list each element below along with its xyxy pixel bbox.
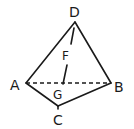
- label-G: G: [53, 88, 62, 102]
- edge-DB: [75, 22, 111, 83]
- edge-CB: [58, 83, 111, 106]
- label-A: A: [10, 77, 20, 93]
- label-B: B: [114, 79, 124, 95]
- segment-FG: [63, 65, 67, 84]
- label-C: C: [53, 112, 63, 128]
- label-F: F: [62, 49, 69, 63]
- label-D: D: [69, 4, 80, 20]
- segment-DF: [71, 28, 74, 44]
- tetrahedron-diagram: D A B C F G: [0, 0, 134, 129]
